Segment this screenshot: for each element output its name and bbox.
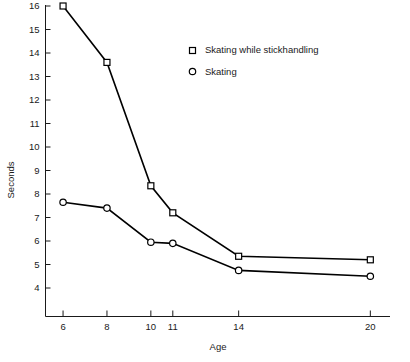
x-tick-label: 11: [168, 321, 178, 332]
x-tick-label: 20: [365, 321, 376, 332]
series-open-circle: [60, 199, 374, 279]
y-tick-label: 13: [29, 71, 40, 82]
y-tick-label: 10: [29, 141, 40, 152]
circle-marker-icon: [189, 68, 195, 74]
y-tick-label: 6: [34, 235, 39, 246]
y-tick-label: 5: [34, 259, 39, 270]
data-point-circle: [170, 240, 176, 246]
legend-label-stickhandling: Skating while stickhandling: [205, 44, 319, 55]
x-axis-title: Age: [210, 341, 227, 352]
y-tick-label: 15: [29, 24, 40, 35]
y-tick-label: 8: [34, 188, 39, 199]
data-point-circle: [235, 267, 241, 273]
x-axis-ticks: [63, 311, 370, 317]
series-open-square: [60, 3, 373, 263]
y-tick-label: 11: [30, 118, 40, 129]
data-point-square: [367, 257, 373, 263]
y-tick-label: 7: [34, 212, 39, 223]
y-tick-label: 16: [29, 0, 40, 11]
x-tick-label: 14: [233, 321, 244, 332]
data-point-circle: [367, 273, 373, 279]
line-chart: 16151413121110987654 6810111420 Seconds …: [0, 0, 410, 362]
y-axis-title: Seconds: [5, 161, 16, 198]
y-tick-label: 14: [29, 47, 40, 58]
data-point-square: [236, 253, 242, 259]
x-axis-tick-labels: 6810111420: [60, 321, 375, 332]
data-point-square: [170, 210, 176, 216]
square-marker-icon: [190, 48, 196, 54]
legend-label-skating: Skating: [205, 66, 237, 77]
y-tick-label: 9: [34, 165, 39, 176]
data-point-square: [60, 3, 66, 9]
y-axis-ticks: [46, 6, 51, 288]
data-point-circle: [104, 205, 110, 211]
data-point-square: [148, 183, 154, 189]
x-tick-label: 6: [60, 321, 65, 332]
data-point-circle: [148, 239, 154, 245]
chart-legend: Skating while stickhandling Skating: [189, 44, 318, 77]
data-point-circle: [60, 199, 66, 205]
y-tick-label: 12: [29, 94, 40, 105]
series-line: [63, 202, 370, 276]
y-tick-label: 4: [34, 282, 39, 293]
data-point-square: [104, 59, 110, 65]
y-axis-tick-labels: 16151413121110987654: [29, 0, 40, 293]
x-tick-label: 8: [104, 321, 109, 332]
x-tick-label: 10: [146, 321, 157, 332]
chart-canvas: 16151413121110987654 6810111420 Seconds …: [0, 0, 410, 362]
